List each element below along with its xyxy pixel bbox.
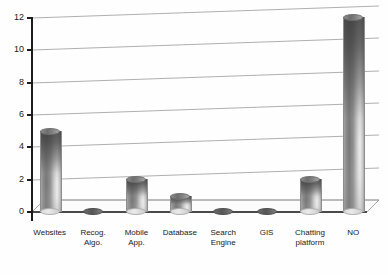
y-tick-label-6: 6 — [2, 110, 24, 119]
bar-base-ellipse — [300, 208, 320, 215]
bar-top-ellipse — [170, 193, 190, 200]
y-tick-label-4: 4 — [2, 142, 24, 151]
bar-base-ellipse — [343, 208, 363, 215]
bar-base-ellipse — [40, 208, 60, 215]
y-tick-label-12: 12 — [2, 13, 24, 22]
bar-top-ellipse — [300, 176, 320, 183]
bar-websites — [40, 131, 60, 212]
bar-base-ellipse — [126, 208, 146, 215]
bar-chart: 12 10 8 6 4 2 0 WebsitesRecog.Algo.Mobil… — [0, 0, 388, 275]
bar-database — [170, 196, 190, 212]
bar-mobile-app — [126, 179, 146, 212]
y-tick-label-10: 10 — [2, 45, 24, 54]
bar-base-ellipse — [257, 208, 277, 215]
bar-base-ellipse — [170, 208, 190, 215]
y-tick-label-0: 0 — [2, 207, 24, 216]
x-label-line: App. — [106, 238, 166, 248]
y-tick-label-2: 2 — [2, 175, 24, 184]
y-tick-label-8: 8 — [2, 78, 24, 87]
bars-layer — [32, 17, 379, 221]
x-label-line: Engine — [193, 238, 253, 248]
x-axis-labels: WebsitesRecog.Algo.MobileApp.DatabaseSea… — [0, 228, 388, 262]
bar-chatting-platform — [300, 179, 320, 212]
bar-body — [343, 17, 365, 212]
bar-no — [343, 17, 363, 212]
x-label-line: NO — [323, 228, 383, 238]
x-label-line: platform — [280, 238, 340, 248]
bar-top-ellipse — [40, 128, 60, 135]
bar-body — [40, 131, 62, 212]
x-tick-label-7: NO — [323, 228, 383, 238]
bar-base-ellipse — [213, 208, 233, 215]
bar-base-ellipse — [83, 208, 103, 215]
